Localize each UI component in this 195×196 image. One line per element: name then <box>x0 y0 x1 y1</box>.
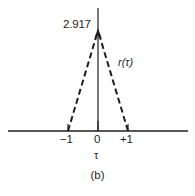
x-tick-label-neg1: −1 <box>60 134 73 146</box>
figure-panel: 2.917 r(τ) −1 0 +1 τ (b) <box>0 0 195 196</box>
x-tick-label-pos1: +1 <box>120 134 133 146</box>
peak-value-label: 2.917 <box>63 19 91 31</box>
x-tick-label-zero: 0 <box>94 134 100 146</box>
figure-caption: (b) <box>0 170 195 182</box>
curve-label: r(τ) <box>118 57 133 68</box>
x-axis-title: τ <box>94 150 98 161</box>
waveform-right-edge <box>99 34 128 131</box>
waveform-left-edge <box>68 34 97 131</box>
triangular-waveform-plot <box>0 0 195 196</box>
